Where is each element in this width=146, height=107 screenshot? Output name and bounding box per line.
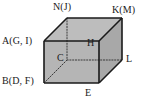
- vertex-label-E: E: [85, 88, 91, 98]
- vertex-label-L: L: [126, 54, 132, 64]
- vertex-label-C: C: [57, 53, 64, 63]
- vertex-label-K: K(M): [112, 5, 135, 15]
- cube-figure: A(G, I) N(J) K(M) H C L B(D, F) E: [0, 0, 146, 107]
- vertex-label-B: B(D, F): [2, 76, 34, 86]
- vertex-label-N: N(J): [53, 2, 71, 12]
- vertex-label-H: H: [87, 38, 94, 48]
- vertex-label-A: A(G, I): [2, 36, 32, 46]
- cube-drawing: [0, 0, 146, 107]
